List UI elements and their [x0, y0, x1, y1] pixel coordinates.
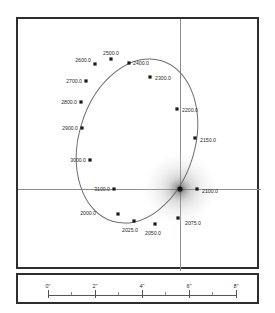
scale-tick-label: 4" [140, 283, 145, 289]
epoch-label: 2075.0 [185, 220, 201, 226]
epoch-dot [195, 187, 198, 190]
epoch-dot [116, 212, 119, 215]
epoch-label: 2100.0 [202, 188, 218, 194]
epoch-label: 2600.0 [75, 57, 91, 63]
epoch-dot [132, 219, 135, 222]
epoch-label: 2200.0 [182, 107, 198, 113]
epoch-marker: 2200.0 [175, 107, 198, 113]
epoch-label: 3100.0 [94, 186, 110, 192]
scale-tick-label: 8" [234, 283, 239, 289]
epoch-dot [93, 62, 96, 65]
crosshair-axes [18, 19, 261, 271]
epoch-label: 2800.0 [61, 99, 77, 105]
epoch-marker: 2700.0 [66, 78, 87, 84]
epoch-label: 2700.0 [66, 78, 82, 84]
scale-tick-label: 2" [93, 283, 98, 289]
epoch-dot [109, 57, 112, 60]
epoch-label: 2150.0 [200, 137, 216, 143]
epoch-marker: 2300.0 [148, 75, 171, 81]
scale-bar-ticks: 0"2"4"6"8" [46, 283, 239, 299]
epoch-label: 2000.0 [80, 210, 96, 216]
epoch-label: 2025.0 [122, 227, 138, 233]
epoch-label: 2050.0 [145, 230, 161, 236]
epoch-dot [175, 107, 178, 110]
epoch-dot [80, 126, 83, 129]
epoch-label: 2300.0 [155, 75, 171, 81]
figure-root: 2000.02025.02050.02075.02100.02150.02200… [0, 0, 275, 313]
primary-star-marker [177, 186, 182, 191]
orbit-plot-canvas: 2000.02025.02050.02075.02100.02150.02200… [18, 19, 261, 271]
epoch-dot [193, 136, 196, 139]
epoch-dot [153, 222, 156, 225]
epoch-label: 2500.0 [103, 50, 119, 56]
epoch-dot [79, 100, 82, 103]
epoch-dot [84, 79, 87, 82]
primary-star-dot [177, 186, 182, 191]
epoch-label: 3000.0 [70, 157, 86, 163]
orbit-panel: 2000.02025.02050.02075.02100.02150.02200… [16, 17, 259, 269]
scale-tick-label: 6" [187, 283, 192, 289]
epoch-label: 2900.0 [62, 125, 78, 131]
epoch-dot [112, 187, 115, 190]
epoch-marker: 3000.0 [70, 157, 91, 163]
epoch-dot [127, 61, 130, 64]
epoch-marker: 2600.0 [75, 57, 96, 66]
epoch-label: 2400.0 [133, 60, 149, 66]
scale-tick-label: 0" [46, 283, 51, 289]
scale-bar-canvas: 0"2"4"6"8" [18, 275, 261, 306]
scale-bar-panel: 0"2"4"6"8" [16, 273, 259, 304]
epoch-dot [176, 216, 179, 219]
epoch-dot [148, 75, 151, 78]
epoch-dot [88, 158, 91, 161]
epoch-marker: 2050.0 [145, 222, 161, 236]
epoch-marker: 2500.0 [103, 50, 119, 61]
epoch-marker: 2800.0 [61, 99, 82, 105]
